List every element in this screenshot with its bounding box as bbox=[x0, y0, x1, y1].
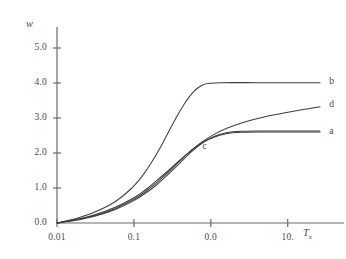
y-axis-tick-label: 2.0 bbox=[13, 147, 47, 157]
chart-canvas bbox=[0, 0, 346, 259]
curve-label-d: d bbox=[329, 99, 334, 109]
axes-group bbox=[53, 27, 344, 227]
y-axis-tick-label: 0.0 bbox=[13, 217, 47, 227]
x-axis-tick-label: 10. bbox=[268, 232, 308, 242]
curve-c bbox=[57, 131, 320, 223]
x-axis-title-subscript: x bbox=[309, 233, 312, 241]
x-axis-tick-label: 0.0 bbox=[191, 232, 231, 242]
y-axis-tick-label: 3.0 bbox=[13, 112, 47, 122]
y-axis-tick-label: 4.0 bbox=[13, 77, 47, 87]
curves-group bbox=[57, 83, 320, 223]
curve-label-b: b bbox=[329, 76, 334, 86]
x-axis-tick-label: 0.01 bbox=[37, 232, 77, 242]
curve-label-c: c bbox=[202, 141, 206, 151]
curve-d bbox=[57, 107, 320, 223]
plot-figure: w Tx 0.01.02.03.04.05.0 0.010.10.010. ab… bbox=[0, 0, 346, 259]
y-axis-tick-label: 5.0 bbox=[13, 42, 47, 52]
y-axis-title: w bbox=[26, 18, 33, 29]
curve-a bbox=[57, 132, 320, 223]
y-axis-tick-label: 1.0 bbox=[13, 182, 47, 192]
curve-label-a: a bbox=[329, 126, 333, 136]
x-axis-tick-label: 0.1 bbox=[114, 232, 154, 242]
